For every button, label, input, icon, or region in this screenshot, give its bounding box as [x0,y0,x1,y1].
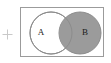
venn-diagram-graphic: A B [21,8,103,56]
set-label-a: A [38,27,45,37]
set-label-b: B [82,27,88,37]
plus-icon [2,26,13,37]
venn-diagram-screen: A B [0,0,111,63]
venn-diagram-frame: A B [20,7,104,57]
